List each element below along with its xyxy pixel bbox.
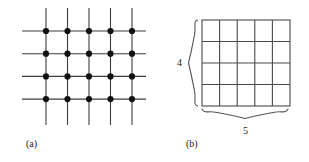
figure-root: 4 5 (a) (b) — [0, 0, 309, 162]
lattice-dot — [86, 51, 92, 57]
column-count-label: 5 — [243, 126, 248, 136]
lattice-dot — [129, 96, 135, 102]
panel-b-cell-grid — [189, 20, 291, 119]
lattice-dot — [64, 51, 70, 57]
lattice-dot — [43, 28, 49, 34]
lattice-dot — [43, 96, 49, 102]
panel-a-caption: (a) — [26, 139, 37, 149]
lattice-dot — [43, 51, 49, 57]
lattice-dot — [64, 96, 70, 102]
lattice-dot — [107, 51, 113, 57]
lattice-dot — [86, 73, 92, 79]
lattice-dot — [64, 28, 70, 34]
lattice-dot — [86, 28, 92, 34]
row-brace — [189, 20, 198, 106]
lattice-dot — [107, 73, 113, 79]
lattice-horizontal-lines — [22, 31, 146, 99]
lattice-dot — [43, 73, 49, 79]
lattice-dot — [64, 73, 70, 79]
row-count-label: 4 — [177, 58, 182, 68]
lattice-dot — [107, 96, 113, 102]
figure-canvas — [0, 0, 309, 162]
lattice-vertical-lines — [46, 8, 132, 125]
lattice-dot — [129, 73, 135, 79]
cell-grid-horizontal-lines — [202, 42, 290, 85]
lattice-dot — [129, 28, 135, 34]
panel-b-caption: (b) — [186, 139, 198, 149]
lattice-dot — [107, 28, 113, 34]
lattice-dot — [129, 51, 135, 57]
lattice-dot — [86, 96, 92, 102]
column-brace — [202, 109, 288, 119]
panel-a-lattice — [22, 8, 146, 125]
